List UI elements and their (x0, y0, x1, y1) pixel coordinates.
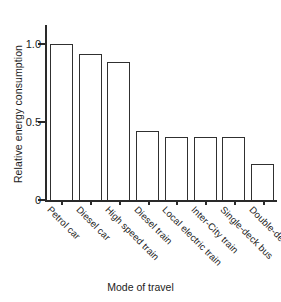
x-axis-title: Mode of travel (0, 281, 281, 293)
bar (165, 137, 188, 200)
bar-chart-figure: Relative energy consumption 00.51.0 Petr… (0, 0, 281, 302)
bar (50, 44, 73, 200)
bar-series (47, 25, 277, 202)
plot-area: 00.51.0 (45, 25, 277, 202)
bar (107, 62, 130, 200)
y-tick-label: 0 (35, 194, 41, 206)
bar (222, 137, 245, 200)
x-axis-tick-labels: Petrol carDiesel carHigh speed trainDies… (45, 204, 281, 274)
y-tick-label: 1.0 (26, 38, 41, 50)
x-tick-label: Single-deck bus (218, 204, 275, 261)
bar (251, 164, 274, 200)
bar (194, 137, 217, 200)
bar (136, 131, 159, 200)
y-axis-title: Relative energy consumption (12, 24, 24, 204)
y-tick-label: 0.5 (26, 116, 41, 128)
bar (79, 54, 102, 200)
